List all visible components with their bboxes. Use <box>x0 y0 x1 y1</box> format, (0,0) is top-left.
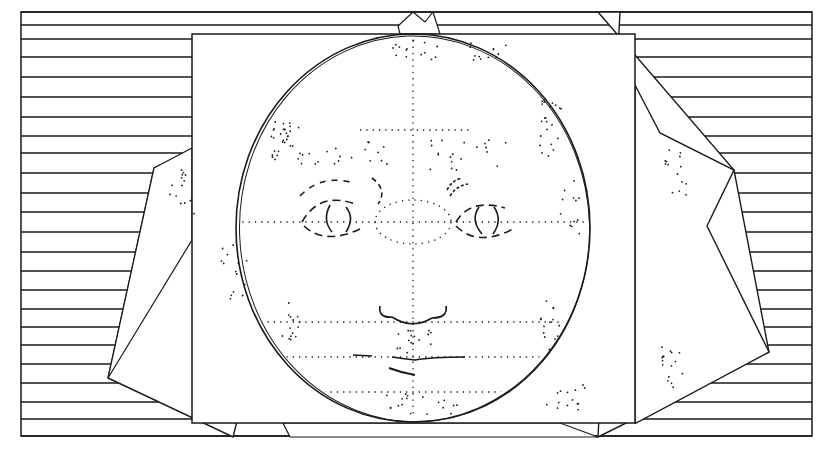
center-card <box>192 34 635 423</box>
face-illustration <box>0 0 831 454</box>
face-drawing-figure <box>0 0 831 454</box>
bottom-band <box>283 423 598 437</box>
